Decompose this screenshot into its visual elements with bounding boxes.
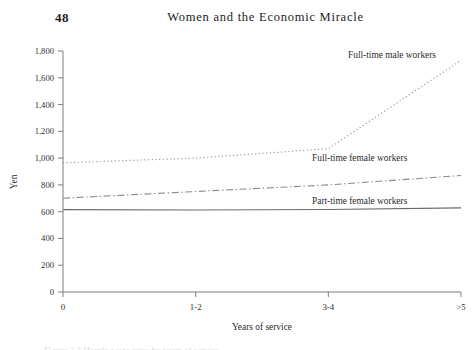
y-tick-label-1800: 1,800 (35, 46, 54, 56)
x-tick-label-0: 0 (61, 302, 66, 312)
line-chart: Yen 0 200 400 600 800 1,000 1,200 1,400 … (0, 0, 475, 350)
y-axis-ticks: 0 200 400 600 800 1,000 1,200 1,400 1,60… (35, 46, 63, 297)
series-line-full-time-male (63, 60, 461, 163)
figure-wage-by-years-of-service: Yen 0 200 400 600 800 1,000 1,200 1,400 … (0, 0, 475, 350)
figure-caption-partial: Figure 2.3 Hourly wage rates by years of… (44, 345, 434, 350)
series-label-full-time-female: Full-time female workers (312, 153, 408, 163)
x-tick-label-gt5: >5 (456, 302, 466, 312)
y-tick-label-800: 800 (41, 180, 54, 190)
series-label-part-time-female: Part-time female workers (312, 196, 408, 206)
x-axis-ticks: 0 1-2 3-4 >5 (61, 292, 466, 312)
x-tick-label-1-2: 1-2 (190, 302, 202, 312)
series-line-part-time-female (63, 208, 461, 210)
series-label-full-time-male: Full-time male workers (348, 50, 436, 60)
y-tick-label-1400: 1,400 (35, 100, 54, 110)
y-tick-label-400: 400 (41, 233, 54, 243)
y-tick-label-1200: 1,200 (35, 126, 54, 136)
x-axis-title: Years of service (232, 322, 292, 332)
y-tick-label-600: 600 (41, 207, 54, 217)
y-tick-label-200: 200 (41, 260, 54, 270)
y-tick-label-1000: 1,000 (35, 153, 54, 163)
series-line-full-time-female (63, 176, 461, 199)
y-axis-title: Yen (9, 174, 19, 189)
y-tick-label-0: 0 (50, 287, 54, 297)
x-tick-label-3-4: 3-4 (322, 302, 334, 312)
y-tick-label-1600: 1,600 (35, 73, 54, 83)
